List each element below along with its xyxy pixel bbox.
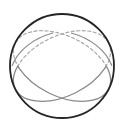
- sphere-diagram-canvas: [0, 0, 124, 137]
- lower-half-mask: [0, 66, 124, 137]
- sphere-diagram-container: [0, 0, 124, 137]
- front-arcs-upper-tails: [12, 33, 112, 66]
